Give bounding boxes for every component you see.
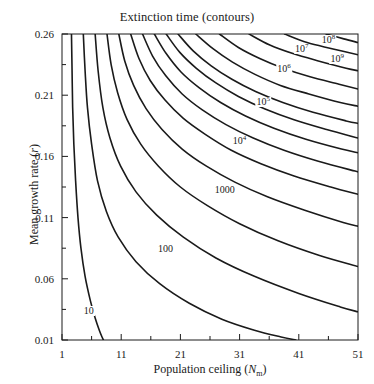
x-tick-label: 31 [234,348,245,360]
x-tick-label: 11 [116,348,127,360]
contour-label: 105 [256,97,272,107]
x-axis-label: Population ceiling (Nm) [62,362,358,377]
extinction-time-contour-figure: Extinction time (contours) 0.010.060.110… [0,0,374,384]
x-tick-label: 51 [353,348,364,360]
y-tick-label: 0.26 [8,28,54,40]
contour-label: 104 [232,136,248,146]
y-tick-label: 0.01 [8,334,54,346]
contour-label: 108 [321,35,337,45]
x-tick-label: 21 [175,348,186,360]
axis-ticks [62,34,358,340]
x-tick-label: 41 [293,348,304,360]
contour-label: 109 [330,54,346,64]
contour-label: 10 [83,306,95,316]
contour-label: 1000 [214,185,236,195]
y-axis-label: Mean growth rate (r) [27,95,42,295]
contour-label: 100 [157,244,174,254]
contour-plot-canvas [0,0,374,384]
plot-frame [62,34,358,340]
contour-label: 106 [276,64,292,74]
x-tick-label: 1 [59,348,65,360]
contour-label: 107 [294,44,310,54]
